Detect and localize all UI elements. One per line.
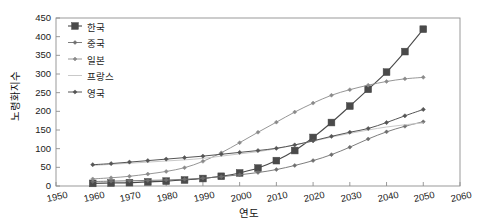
y-axis-title: 노령화지수: [7, 58, 22, 134]
series-영국: [91, 107, 426, 166]
chart-container: 050100150200250300350400450 195019601970…: [0, 0, 497, 224]
axis-ticks: [56, 18, 460, 186]
y-axis-tick-label: 450: [17, 12, 51, 23]
legend-item-프랑스[interactable]: 프랑스: [87, 69, 114, 83]
data-series-group: [89, 26, 426, 187]
series-프랑스: [93, 123, 424, 166]
y-axis-tick-label: 250: [17, 87, 51, 98]
legend-item-한국[interactable]: 한국: [87, 20, 105, 34]
y-axis-tick-label: 150: [17, 124, 51, 135]
y-axis-tick-label: 200: [17, 105, 51, 116]
x-axis-title: 연도: [0, 205, 497, 220]
y-axis-tick-label: 350: [17, 49, 51, 60]
y-axis-tick-label: 400: [17, 31, 51, 42]
legend-item-영국[interactable]: 영국: [87, 86, 105, 100]
legend-markers: [68, 23, 82, 95]
y-axis-tick-label: 0: [17, 180, 51, 191]
y-axis-tick-label: 100: [17, 143, 51, 154]
plot-frame: [56, 18, 460, 186]
legend-item-중국[interactable]: 중국: [87, 36, 105, 50]
y-axis-tick-label: 300: [17, 68, 51, 79]
legend-item-일본[interactable]: 일본: [87, 53, 105, 67]
y-axis-tick-label: 50: [17, 161, 51, 172]
